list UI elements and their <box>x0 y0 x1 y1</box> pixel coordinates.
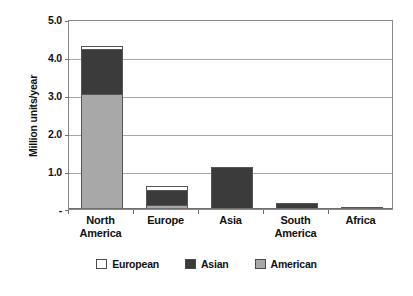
x-axis-label-line: Asia <box>198 214 263 227</box>
x-tick-mark <box>133 210 134 214</box>
legend-label: European <box>112 258 159 270</box>
bar-group[interactable] <box>146 186 188 209</box>
y-tick-label: 2.0 <box>22 128 62 140</box>
x-axis-label: Africa <box>328 214 393 227</box>
plot-area <box>68 20 393 210</box>
legend-swatch-icon <box>185 259 196 269</box>
legend-label: American <box>271 258 317 270</box>
x-axis-label-line: Africa <box>328 214 393 227</box>
y-tick-label: 3.0 <box>22 90 62 102</box>
x-axis-label: NorthAmerica <box>68 214 133 240</box>
legend-swatch-icon <box>96 259 107 269</box>
x-tick-mark <box>328 210 329 214</box>
x-axis-label-line: Europe <box>133 214 198 227</box>
legend-item[interactable]: American <box>255 258 317 270</box>
x-axis-label-line: South <box>263 214 328 227</box>
legend-item[interactable]: European <box>96 258 159 270</box>
bar-group[interactable] <box>211 167 253 209</box>
x-tick-mark <box>198 210 199 214</box>
y-tick-label: 5.0 <box>22 14 62 26</box>
x-tick-mark <box>263 210 264 214</box>
x-axis-label: Asia <box>198 214 263 227</box>
bar-segment-asian[interactable] <box>81 49 123 95</box>
bars-layer <box>69 21 392 209</box>
chart-legend: EuropeanAsianAmerican <box>0 258 413 270</box>
x-axis-category-labels: NorthAmericaEuropeAsiaSouthAmericaAfrica <box>68 214 393 254</box>
bar-segment-american[interactable] <box>81 94 123 209</box>
bar-group[interactable] <box>81 46 123 209</box>
y-tick-label: - <box>22 204 62 216</box>
legend-item[interactable]: Asian <box>185 258 229 270</box>
bar-segment-asian[interactable] <box>146 190 188 206</box>
y-axis-tick-labels: 5.04.03.02.01.0- <box>22 20 62 210</box>
x-axis-label-line: America <box>68 227 133 240</box>
bar-segment-asian[interactable] <box>211 167 253 209</box>
stacked-bar-chart: Million units/year 5.04.03.02.01.0- Nort… <box>0 0 413 296</box>
legend-label: Asian <box>201 258 229 270</box>
x-axis-label: SouthAmerica <box>263 214 328 240</box>
x-axis-label: Europe <box>133 214 198 227</box>
x-axis-label-line: America <box>263 227 328 240</box>
x-tick-mark <box>68 210 69 214</box>
x-axis-label-line: North <box>68 214 133 227</box>
y-tick-label: 4.0 <box>22 52 62 64</box>
x-axis-baseline <box>69 208 392 209</box>
legend-swatch-icon <box>255 259 266 269</box>
y-tick-label: 1.0 <box>22 166 62 178</box>
